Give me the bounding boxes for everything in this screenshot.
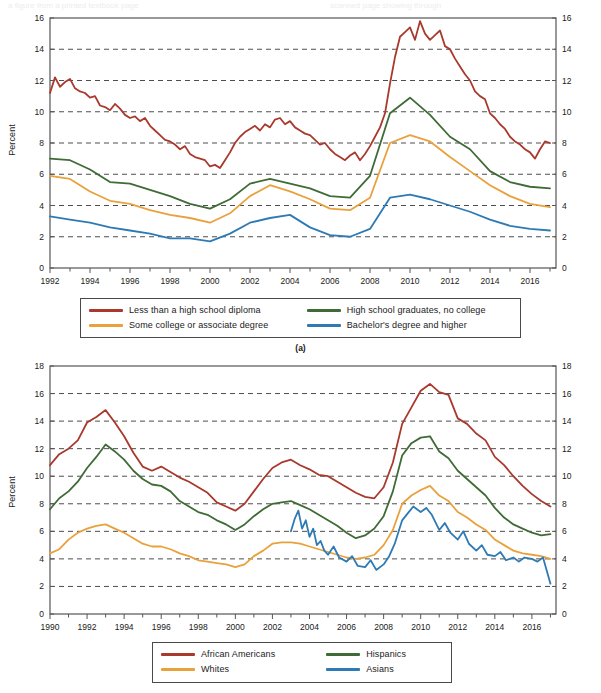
x-tick-label: 2006 bbox=[321, 276, 340, 286]
legend-item-label: High school graduates, no college bbox=[347, 305, 486, 315]
y-tick-label-right: 4 bbox=[562, 201, 567, 211]
y-tick-label-right: 4 bbox=[562, 554, 567, 564]
x-tick-label: 2014 bbox=[485, 622, 504, 632]
y-tick-label-right: 8 bbox=[562, 499, 567, 509]
x-tick-label: 1990 bbox=[41, 622, 60, 632]
legend-color-swatch bbox=[89, 309, 123, 312]
y-tick-label-right: 16 bbox=[562, 389, 572, 399]
legend-item-label: Hispanics bbox=[366, 649, 406, 659]
panel-b-chart: 0022446688101012121414161618181990199219… bbox=[0, 352, 601, 640]
y-tick-label-left: 0 bbox=[39, 263, 44, 273]
y-tick-label-left: 14 bbox=[35, 44, 45, 54]
legend-item: Some college or associate degree bbox=[89, 320, 293, 330]
panel-a-chart: 0022446688101012121414161619921994199619… bbox=[0, 0, 601, 295]
x-tick-label: 2010 bbox=[411, 622, 430, 632]
x-tick-label: 2008 bbox=[374, 622, 393, 632]
figure-panel-a: Percent 00224466881010121214141616199219… bbox=[0, 0, 601, 352]
panel-a-plot-wrap: Percent 00224466881010121214141616199219… bbox=[0, 0, 601, 295]
x-tick-label: 2012 bbox=[448, 622, 467, 632]
y-tick-label-left: 0 bbox=[39, 609, 44, 619]
y-tick-label-left: 8 bbox=[39, 499, 44, 509]
y-tick-label-left: 4 bbox=[39, 554, 44, 564]
legend-color-swatch bbox=[89, 324, 123, 327]
x-tick-label: 2008 bbox=[361, 276, 380, 286]
x-tick-label: 2016 bbox=[522, 622, 541, 632]
x-tick-label: 2002 bbox=[263, 622, 282, 632]
y-tick-label-left: 16 bbox=[35, 389, 45, 399]
legend-item-label: Bachelor's degree and higher bbox=[347, 320, 467, 330]
x-tick-label: 2014 bbox=[481, 276, 500, 286]
x-tick-label: 1994 bbox=[81, 276, 100, 286]
legend-item: African Americans bbox=[161, 649, 310, 659]
x-tick-label: 1994 bbox=[115, 622, 134, 632]
y-tick-label-right: 10 bbox=[562, 107, 572, 117]
series-line bbox=[50, 195, 550, 242]
legend-item: High school graduates, no college bbox=[307, 305, 510, 315]
y-tick-label-right: 2 bbox=[562, 581, 567, 591]
legend-color-swatch bbox=[307, 309, 341, 312]
y-tick-label-right: 12 bbox=[562, 76, 572, 86]
y-tick-label-left: 16 bbox=[35, 13, 45, 23]
y-tick-label-right: 18 bbox=[562, 361, 572, 371]
legend-color-swatch bbox=[326, 653, 360, 656]
legend-item-label: Some college or associate degree bbox=[129, 320, 268, 330]
series-line bbox=[291, 507, 550, 584]
panel-a-legend: Less than a high school diplomaHigh scho… bbox=[80, 298, 521, 338]
figure-panel-b: Percent 00224466881010121214141616181819… bbox=[0, 352, 601, 693]
x-tick-label: 1998 bbox=[161, 276, 180, 286]
y-tick-label-right: 12 bbox=[562, 444, 572, 454]
x-tick-label: 1998 bbox=[189, 622, 208, 632]
x-tick-label: 2006 bbox=[337, 622, 356, 632]
legend-item: Less than a high school diploma bbox=[89, 305, 293, 315]
x-tick-label: 2004 bbox=[281, 276, 300, 286]
series-line bbox=[50, 486, 550, 567]
y-tick-label-left: 2 bbox=[39, 232, 44, 242]
x-tick-label: 1996 bbox=[152, 622, 171, 632]
panel-b-y-axis-label: Percent bbox=[7, 467, 17, 517]
y-tick-label-left: 8 bbox=[39, 138, 44, 148]
legend-item-label: Asians bbox=[366, 664, 394, 674]
y-tick-label-right: 8 bbox=[562, 138, 567, 148]
y-tick-label-right: 0 bbox=[562, 263, 567, 273]
x-tick-label: 2010 bbox=[401, 276, 420, 286]
x-tick-label: 2000 bbox=[201, 276, 220, 286]
y-tick-label-left: 14 bbox=[35, 416, 45, 426]
y-tick-label-right: 14 bbox=[562, 44, 572, 54]
x-tick-label: 1996 bbox=[121, 276, 140, 286]
legend-color-swatch bbox=[161, 668, 195, 671]
series-line bbox=[50, 21, 550, 168]
y-tick-label-right: 2 bbox=[562, 232, 567, 242]
legend-item-label: Whites bbox=[201, 664, 229, 674]
legend-color-swatch bbox=[161, 653, 195, 656]
y-tick-label-left: 18 bbox=[35, 361, 45, 371]
y-tick-label-left: 6 bbox=[39, 169, 44, 179]
y-tick-label-left: 10 bbox=[35, 107, 45, 117]
series-line bbox=[50, 384, 550, 511]
x-tick-label: 2002 bbox=[241, 276, 260, 286]
legend-item: Hispanics bbox=[326, 649, 441, 659]
x-tick-label: 2016 bbox=[521, 276, 540, 286]
panel-a-y-axis-label: Percent bbox=[7, 115, 17, 165]
panel-b-plot-wrap: Percent 00224466881010121214141616181819… bbox=[0, 352, 601, 640]
y-tick-label-left: 6 bbox=[39, 526, 44, 536]
y-tick-label-right: 14 bbox=[562, 416, 572, 426]
series-line bbox=[50, 135, 550, 223]
y-tick-label-right: 6 bbox=[562, 169, 567, 179]
legend-item: Asians bbox=[326, 664, 441, 674]
panel-b-legend: African AmericansHispanicsWhitesAsians bbox=[152, 642, 452, 683]
x-tick-label: 1992 bbox=[41, 276, 60, 286]
legend-item-label: African Americans bbox=[201, 649, 275, 659]
x-tick-label: 2000 bbox=[226, 622, 245, 632]
x-tick-label: 2004 bbox=[300, 622, 319, 632]
y-tick-label-left: 10 bbox=[35, 471, 45, 481]
y-tick-label-right: 10 bbox=[562, 471, 572, 481]
y-tick-label-left: 12 bbox=[35, 76, 45, 86]
legend-item: Whites bbox=[161, 664, 310, 674]
x-tick-label: 1992 bbox=[78, 622, 97, 632]
legend-color-swatch bbox=[307, 324, 341, 327]
y-tick-label-right: 16 bbox=[562, 13, 572, 23]
y-tick-label-right: 6 bbox=[562, 526, 567, 536]
legend-item-label: Less than a high school diploma bbox=[129, 305, 261, 315]
y-tick-label-right: 0 bbox=[562, 609, 567, 619]
y-tick-label-left: 4 bbox=[39, 201, 44, 211]
